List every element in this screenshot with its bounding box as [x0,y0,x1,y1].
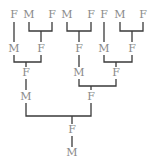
node-label: F [37,42,45,55]
node-label: F [100,8,108,21]
node-label: F [128,42,136,55]
node-label: F [112,66,120,79]
node-label: F [139,8,147,21]
node-label: F [10,8,18,21]
connector-lines [14,22,143,147]
node-label: M [114,8,125,21]
node-label: M [61,8,72,21]
connector [26,103,91,124]
connector [120,22,143,42]
node-label: F [22,66,30,79]
node-label: F [68,123,76,136]
family-tree-diagram: F M F M F F M F M F F M F F M F M F F M [0,0,157,161]
node-label: M [98,42,109,55]
node-label: F [75,42,83,55]
connector [29,22,52,42]
node-label: M [8,42,19,55]
node-label: M [73,66,84,79]
node-label: F [87,8,95,21]
node-label: M [20,90,31,103]
connector [67,22,91,42]
connector [79,79,116,90]
node-label: M [23,8,34,21]
node-label: F [48,8,56,21]
node-label: F [87,90,95,103]
node-label: M [66,146,77,159]
